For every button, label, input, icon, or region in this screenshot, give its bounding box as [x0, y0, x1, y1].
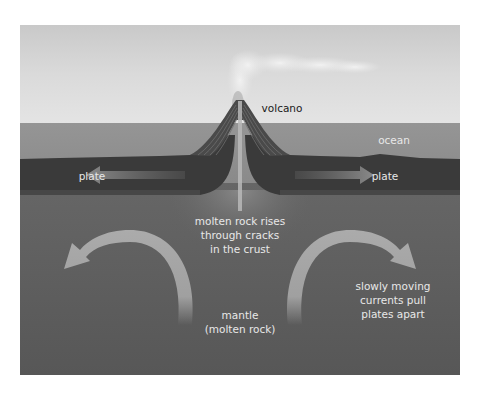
molten-rock-rises-label: molten rock rises through cracks in the …: [185, 214, 295, 256]
mantle-label: mantle (molten rock): [195, 308, 285, 336]
ocean-label: ocean: [364, 133, 424, 147]
plate-right-label: plate: [365, 169, 405, 183]
seafloor-spreading-diagram: volcano ocean plate plate molten rock ri…: [20, 25, 460, 375]
magma-conduit: [238, 101, 242, 211]
plate-left-label: plate: [72, 169, 112, 183]
volcano-label: volcano: [252, 101, 312, 115]
currents-label: slowly moving currents pull plates apart: [338, 279, 448, 321]
